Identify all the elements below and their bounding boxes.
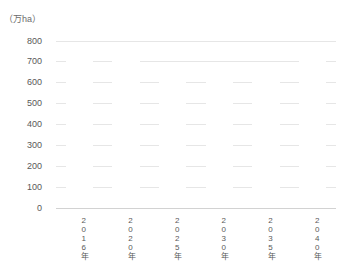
y-axis-tick-label: 300 <box>0 141 42 150</box>
y-axis-tick-label: 400 <box>0 120 42 129</box>
x-axis-tick-label: 2035年 <box>257 212 275 264</box>
bar <box>206 70 233 208</box>
x-axis-tick-text: 2016年 <box>79 212 88 264</box>
gridline <box>56 166 336 167</box>
x-axis-tick-text: 2035年 <box>266 212 275 264</box>
x-axis-tick-label: 2040年 <box>304 212 322 264</box>
x-axis-tick-label: 2020年 <box>117 212 135 264</box>
y-axis-tick-label: 700 <box>0 57 42 66</box>
y-axis-tick-label: 800 <box>0 37 42 46</box>
x-axis-tick-text: 2040年 <box>312 212 321 264</box>
gridline <box>56 145 336 146</box>
gridline <box>56 41 336 42</box>
gridline <box>56 82 336 83</box>
gridline <box>56 103 336 104</box>
y-axis-tick-label: 100 <box>0 183 42 192</box>
y-axis-tick-label: 500 <box>0 99 42 108</box>
y-axis-tick-label: 0 <box>0 204 42 213</box>
x-axis-tick-label: 2030年 <box>210 212 228 264</box>
y-axis-tick-label: 600 <box>0 78 42 87</box>
bar <box>252 77 279 209</box>
x-axis-tick-text: 2030年 <box>219 212 228 264</box>
gridline <box>56 124 336 125</box>
x-axis-tick-text: 2025年 <box>172 212 181 264</box>
x-axis-tick-label: 2025年 <box>164 212 182 264</box>
gridline <box>56 61 336 62</box>
gridline <box>56 187 336 188</box>
bar <box>159 62 186 208</box>
plot-area: 8007006005004003002001000 <box>56 41 336 208</box>
x-axis-tick-text: 2020年 <box>126 212 135 264</box>
y-axis-unit-label: （万ha） <box>4 13 41 25</box>
bar <box>299 45 326 208</box>
axis-baseline <box>56 208 336 209</box>
x-axis-tick-label: 2016年 <box>70 212 88 264</box>
bar <box>66 45 93 208</box>
bar <box>112 56 139 208</box>
y-axis-tick-label: 200 <box>0 162 42 171</box>
bar-chart: （万ha） 8007006005004003002001000 2016年202… <box>0 0 342 270</box>
